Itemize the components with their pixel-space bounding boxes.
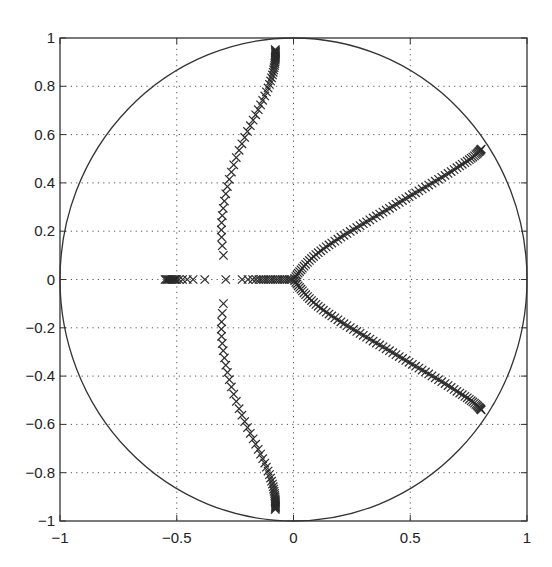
x-tick-label: −0.5 bbox=[162, 529, 192, 546]
series-right-upper-branch bbox=[290, 145, 485, 283]
y-tick-label: 0.6 bbox=[34, 126, 55, 143]
y-tick-label: −0.2 bbox=[25, 319, 55, 336]
pole-marker bbox=[325, 310, 333, 318]
x-tick-label: 0 bbox=[289, 529, 297, 546]
x-tick-label: 0.5 bbox=[400, 529, 421, 546]
pole-marker bbox=[223, 368, 231, 376]
series-left-upper-branch bbox=[217, 45, 280, 259]
pole-marker bbox=[453, 163, 461, 171]
pole-marker bbox=[217, 226, 225, 234]
pole-marker bbox=[219, 251, 227, 259]
y-tick-label: −0.4 bbox=[25, 367, 55, 384]
pole-marker bbox=[227, 168, 235, 176]
pole-marker bbox=[217, 233, 225, 241]
pole-marker bbox=[225, 175, 233, 183]
pole-marker bbox=[219, 347, 227, 355]
pole-marker bbox=[201, 275, 209, 283]
pole-marker bbox=[322, 308, 330, 316]
pole-marker bbox=[232, 397, 240, 405]
y-tick-label: 0.8 bbox=[34, 77, 55, 94]
x-tick-label: 1 bbox=[523, 529, 531, 546]
y-tick-label: 0 bbox=[47, 271, 55, 288]
series-left-lower-branch bbox=[217, 299, 280, 513]
pole-marker bbox=[322, 243, 330, 251]
pole-marker bbox=[218, 241, 226, 249]
pole-marker bbox=[220, 197, 228, 205]
series-right-lower-branch bbox=[290, 277, 485, 415]
x-tick-label: −1 bbox=[51, 529, 68, 546]
pole-markers bbox=[161, 45, 486, 513]
pole-marker bbox=[220, 354, 228, 362]
pole-marker bbox=[222, 361, 230, 369]
pole-marker bbox=[325, 241, 333, 249]
pole-marker bbox=[227, 383, 235, 391]
pole-marker bbox=[222, 190, 230, 198]
y-tick-labels: −1−0.8−0.6−0.4−0.200.20.40.60.81 bbox=[25, 29, 55, 529]
pole-marker bbox=[225, 376, 233, 384]
pole-marker bbox=[232, 153, 240, 161]
pole-marker bbox=[458, 390, 466, 398]
y-tick-label: −0.8 bbox=[25, 464, 55, 481]
x-tick-labels: −1−0.500.51 bbox=[51, 529, 531, 546]
y-tick-label: −0.6 bbox=[25, 415, 55, 432]
pole-marker bbox=[244, 275, 252, 283]
pole-marker bbox=[456, 389, 464, 397]
y-tick-label: 0.4 bbox=[34, 174, 55, 191]
pole-marker bbox=[219, 299, 227, 307]
pole-marker bbox=[453, 387, 461, 395]
pole-marker bbox=[218, 309, 226, 317]
pole-marker bbox=[217, 318, 225, 326]
pole-marker bbox=[456, 162, 464, 170]
pole-marker bbox=[458, 160, 466, 168]
pole-marker bbox=[319, 245, 327, 253]
pole-marker bbox=[223, 182, 231, 190]
y-tick-label: 1 bbox=[47, 29, 55, 46]
pole-marker bbox=[230, 390, 238, 398]
y-tick-label: −1 bbox=[38, 512, 55, 529]
pole-marker bbox=[230, 161, 238, 169]
pole-plot: −1−0.500.51 −1−0.8−0.6−0.4−0.200.20.40.6… bbox=[0, 0, 552, 567]
pole-marker bbox=[219, 204, 227, 212]
y-tick-label: 0.2 bbox=[34, 222, 55, 239]
pole-marker bbox=[319, 306, 327, 314]
pole-marker bbox=[217, 325, 225, 333]
